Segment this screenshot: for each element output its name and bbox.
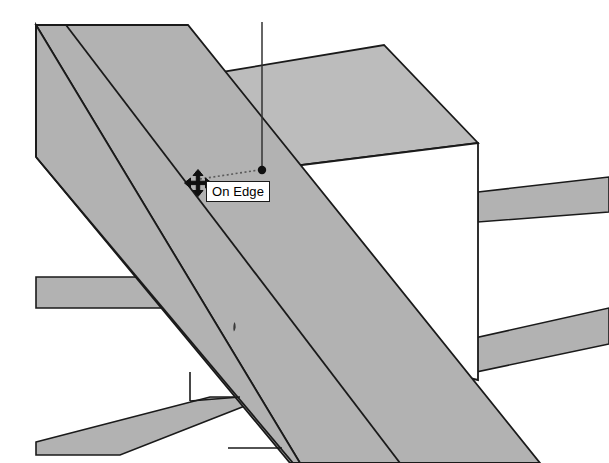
inference-tooltip-label: On Edge bbox=[212, 184, 264, 199]
inference-tooltip: On Edge bbox=[206, 181, 270, 202]
model-geometry[interactable] bbox=[0, 0, 609, 463]
sketchup-viewport[interactable]: On Edge bbox=[0, 0, 609, 463]
endpoint-marker[interactable] bbox=[258, 166, 266, 174]
